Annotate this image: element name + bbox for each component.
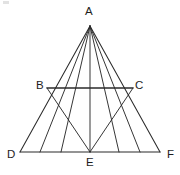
vertex-label-a: A: [85, 6, 93, 18]
vertex-label-c: C: [135, 80, 143, 92]
figure-canvas: [0, 0, 180, 175]
vertex-label-f: F: [167, 149, 174, 161]
geometry-figure: A B C D E F: [0, 0, 180, 175]
side-AD: [20, 26, 90, 152]
vertex-label-b: B: [36, 80, 44, 92]
vertex-label-d: D: [7, 149, 15, 161]
crossline-B-E: [47, 88, 90, 152]
side-AF: [90, 26, 160, 152]
crossline-C-E: [90, 88, 133, 152]
vertex-label-e: E: [86, 157, 94, 169]
